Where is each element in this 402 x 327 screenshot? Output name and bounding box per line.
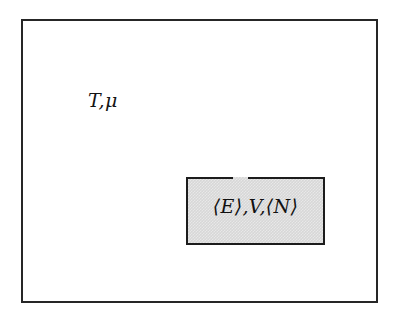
system-box: ⟨E⟩,V,⟨N⟩	[186, 177, 325, 245]
reservoir-label: T,μ	[88, 91, 118, 110]
system-top-border-right-segment	[248, 177, 323, 179]
system-label: ⟨E⟩,V,⟨N⟩	[188, 197, 323, 216]
ensemble-diagram: T,μ ⟨E⟩,V,⟨N⟩	[0, 0, 402, 327]
reservoir-box: T,μ ⟨E⟩,V,⟨N⟩	[21, 19, 378, 303]
system-top-border-left-segment	[188, 177, 233, 179]
